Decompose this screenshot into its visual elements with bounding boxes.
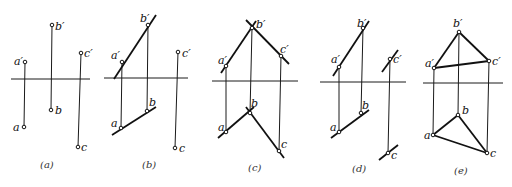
label-b-top: b: [362, 99, 369, 112]
projection-line-b: [458, 32, 459, 115]
projection-line-c: [175, 52, 178, 148]
point-a-top: [224, 130, 228, 134]
projection-line-c: [279, 56, 281, 151]
projection-line-c: [78, 53, 81, 147]
point-b-front: [250, 26, 254, 30]
label-b-front: b′: [453, 17, 463, 30]
label-c-front: c′: [492, 55, 501, 68]
edge-ab-top: [433, 115, 458, 135]
line-ab-top: [331, 110, 369, 138]
projection-line-a: [24, 62, 25, 127]
projection-line-c: [487, 61, 489, 153]
point-c-top: [485, 151, 489, 155]
point-b-front: [50, 23, 54, 27]
point-b-top: [456, 113, 460, 117]
point-a-top: [431, 133, 435, 137]
label-c-front: c′: [84, 47, 93, 60]
label-c-top: c: [81, 141, 87, 154]
point-c-front: [487, 59, 491, 63]
caption-c: (c): [248, 162, 262, 173]
label-b-front: b′: [357, 17, 367, 30]
label-a-top: a: [13, 121, 20, 134]
label-b-front: b′: [256, 18, 266, 31]
label-c-front: c′: [280, 43, 289, 56]
point-b-top: [145, 109, 149, 113]
edge-ac-front: [434, 61, 489, 68]
label-a-top: a: [330, 121, 337, 134]
point-a-front: [23, 60, 27, 64]
caption-d: (d): [352, 163, 366, 174]
point-a-top: [22, 125, 26, 129]
label-c-top: c: [179, 142, 185, 155]
point-c-top: [386, 151, 390, 155]
projection-line-b: [147, 25, 148, 111]
point-c-front: [176, 50, 180, 54]
label-a-top: a: [218, 121, 225, 134]
label-a-front: a′: [218, 54, 228, 67]
label-a-top: a: [111, 117, 118, 130]
point-a-top: [119, 126, 123, 130]
projection-line-a: [121, 62, 122, 128]
panel-a: a′ b′ c′ a b c (a): [11, 20, 93, 170]
line-ab-top: [112, 107, 156, 135]
label-c-top: c: [281, 138, 287, 151]
label-c-top: c: [490, 147, 496, 160]
projection-line-a: [433, 68, 434, 135]
edge-ab-front: [434, 32, 459, 68]
label-b-top: b: [149, 96, 156, 109]
label-c-front: c′: [182, 47, 191, 60]
caption-e: (e): [454, 165, 468, 176]
point-c-front: [79, 51, 83, 55]
point-b-front: [457, 30, 461, 34]
label-b-front: b′: [140, 12, 150, 25]
point-b-top: [49, 108, 53, 112]
panel-e: a′ b′ c′ a b c (e): [423, 17, 503, 176]
label-a-front: a′: [331, 53, 341, 66]
edge-bc-front: [459, 32, 489, 61]
label-b-top: b: [251, 97, 258, 110]
caption-b: (b): [142, 159, 156, 170]
label-b-front: b′: [55, 20, 65, 33]
label-a-front: a′: [425, 57, 435, 70]
caption-a: (a): [40, 159, 54, 170]
label-a-top: a: [424, 129, 431, 142]
edge-ac-top: [433, 135, 487, 153]
panel-b: a′ b′ c′ a b c (b): [104, 12, 191, 170]
point-c-top: [76, 145, 80, 149]
label-c-top: c: [391, 149, 397, 162]
point-b-top: [248, 111, 252, 115]
label-b-top: b: [55, 104, 62, 117]
panel-c: a′ b′ c′ a b c (c): [212, 18, 298, 173]
point-c-top: [173, 146, 177, 150]
label-a-front: a′: [14, 55, 24, 68]
point-a-top: [337, 130, 341, 134]
panel-d: a′ b′ c′ a b c (d): [320, 17, 406, 174]
point-a-front: [120, 60, 124, 64]
label-c-front: c′: [393, 53, 402, 66]
projection-line-c: [388, 59, 390, 153]
projection-diagram: a′ b′ c′ a b c (a) a′ b′ c′ a b c (b): [0, 0, 512, 187]
label-b-top: b: [462, 104, 469, 117]
label-a-front: a′: [111, 49, 121, 62]
point-c-front: [388, 57, 392, 61]
projection-line-b: [51, 25, 52, 110]
